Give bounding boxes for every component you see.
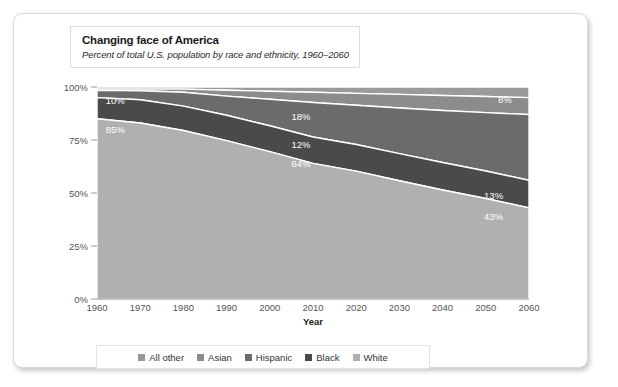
legend-item[interactable]: White (353, 352, 388, 363)
x-tick-label: 1970 (130, 302, 151, 313)
y-tick-label: 25% (69, 241, 89, 252)
page-title: Changing face of America (82, 33, 349, 47)
x-tick-label: 1980 (173, 302, 194, 313)
x-tick-label: 1990 (216, 302, 237, 313)
area-series-group (97, 87, 529, 299)
y-tick-label: 50% (69, 188, 89, 199)
legend-swatch-icon (138, 354, 145, 361)
legend-label: All other (149, 352, 184, 363)
data-label: 85% (106, 124, 126, 135)
legend-item[interactable]: Hispanic (245, 352, 292, 363)
y-tick-label: 100% (64, 82, 89, 93)
chart-subtitle: Percent of total U.S. population by race… (82, 48, 349, 61)
legend-item[interactable]: All other (138, 352, 184, 363)
x-tick-label: 2040 (432, 302, 453, 313)
y-tick-label: 75% (69, 135, 89, 146)
data-label: 43% (484, 211, 504, 222)
x-tick-label: 2060 (518, 302, 539, 313)
legend-label: Black (316, 352, 339, 363)
legend-swatch-icon (245, 354, 252, 361)
data-label: 13% (484, 190, 504, 201)
legend-item[interactable]: Asian (197, 352, 232, 363)
chart-legend: All otherAsianHispanicBlackWhite (96, 345, 430, 369)
x-tick-label: 2050 (475, 302, 496, 313)
legend-swatch-icon (353, 354, 360, 361)
legend-label: White (364, 352, 388, 363)
legend-label: Asian (208, 352, 232, 363)
data-label: 64% (291, 158, 311, 169)
x-tick-label: 2020 (346, 302, 367, 313)
legend-swatch-icon (197, 354, 204, 361)
legend-swatch-icon (305, 354, 312, 361)
legend-label: Hispanic (256, 352, 292, 363)
legend-item[interactable]: Black (305, 352, 339, 363)
x-tick-label: 1960 (86, 302, 107, 313)
chart-title-box: Changing face of America Percent of tota… (70, 26, 360, 68)
x-tick-label: 2000 (259, 302, 280, 313)
data-label: 8% (498, 94, 512, 105)
x-axis-title: Year (303, 316, 323, 327)
chart-card: 0%25%50%75%100%1960197019801990200020102… (13, 13, 588, 368)
data-label: 12% (291, 139, 311, 150)
x-tick-label: 2030 (389, 302, 410, 313)
data-label: 18% (291, 111, 311, 122)
data-label: 10% (106, 95, 126, 106)
x-tick-label: 2010 (302, 302, 323, 313)
